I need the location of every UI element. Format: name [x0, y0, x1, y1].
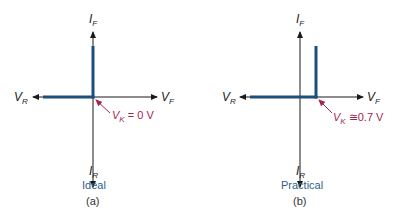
label-if-b: IF: [296, 13, 304, 28]
label-vr-b: VR: [222, 91, 236, 106]
panel-b-characteristic: [250, 46, 318, 99]
label-vf-b: VF: [367, 91, 380, 106]
diode-characteristic-diagrams: [0, 0, 395, 220]
knee-pointer-b: [319, 100, 332, 113]
knee-pointer-a: [96, 100, 110, 113]
label-ir-b: IR: [296, 165, 305, 180]
label-ir-a: IR: [89, 165, 98, 180]
panel-b-axes: [240, 32, 363, 187]
label-vr-a: VR: [14, 91, 28, 106]
label-vf-a: VF: [161, 91, 174, 106]
knee-label-a: VK = 0 V: [112, 110, 154, 124]
panel-a-title: Ideal: [82, 180, 106, 191]
label-if-a: IF: [89, 13, 97, 28]
panel-a-characteristic: [43, 46, 95, 99]
panel-b-caption: (b): [293, 196, 306, 207]
panel-a-caption: (a): [86, 196, 99, 207]
panel-b-title: Practical: [281, 180, 323, 191]
knee-label-b: VK ≅0.7 V: [333, 112, 383, 126]
